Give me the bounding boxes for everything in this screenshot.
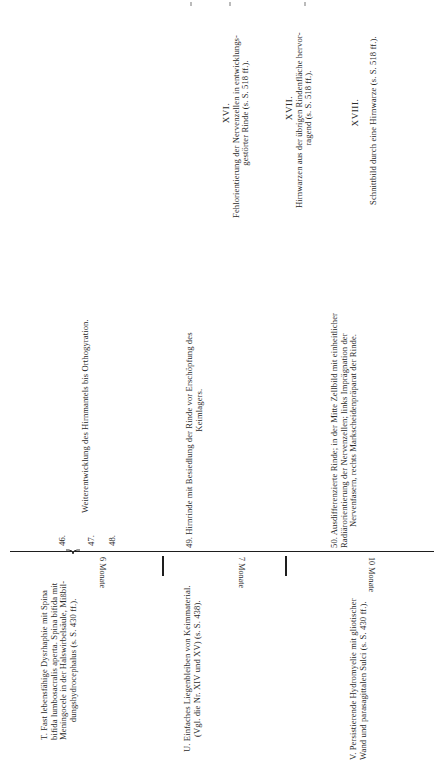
entry-47-text: Weiterentwicklung des Hirnmantels bis Or… bbox=[81, 319, 91, 513]
plate-xviii-line-1: Schnittbild durch eine Hirnwarze (s. S. … bbox=[369, 20, 379, 205]
timeline-separator bbox=[162, 556, 164, 576]
entry-49-line-1: 49. Hirnrinde mit Besiedlung der Rinde v… bbox=[185, 332, 195, 548]
entry-50-block: 50. Ausdifferenzierte Rinde; in der Mitt… bbox=[330, 313, 359, 548]
plate-xviii: XVIII. Schnittbild durch eine Hirnwarze … bbox=[351, 20, 378, 205]
timeline-separator bbox=[285, 556, 287, 576]
brace-icon bbox=[66, 520, 80, 578]
case-t-block: T. Fast lebensfähige Dysrhaphie mit Spin… bbox=[40, 581, 78, 740]
entry-48-number: 48. bbox=[108, 535, 118, 546]
scan-artifact bbox=[229, 2, 231, 6]
age-label-7-monate: 7 Monate bbox=[237, 557, 246, 588]
case-u-block: U. Einfaches Liegenbleiben von Keimmater… bbox=[183, 585, 202, 752]
entry-49-block: 49. Hirnrinde mit Besiedlung der Rinde v… bbox=[185, 332, 204, 548]
plate-xvi: XVI. Fehlorientierung der Nervenzellen i… bbox=[222, 8, 251, 218]
scan-artifact bbox=[304, 2, 306, 6]
plate-xvi-line-2: gestörter Rinde (s. S. 518 ff.). bbox=[241, 8, 251, 218]
plate-xvii-line-2: ragend (s. S. 518 ff.). bbox=[304, 8, 314, 208]
case-v-line-2: Wand und parasagittalen Sulci (s. S. 430… bbox=[359, 598, 369, 760]
age-label-10-monate: 10 Monate bbox=[367, 557, 376, 592]
plate-xviii-numeral: XVIII. bbox=[351, 20, 361, 205]
scan-artifact bbox=[190, 2, 192, 6]
plate-xvii: XVII. Hirnwarzen aus der übrigen Rindenf… bbox=[285, 8, 314, 208]
age-label-6-monate: 6 Monate bbox=[98, 557, 107, 588]
entry-47-number: 47. bbox=[87, 535, 97, 546]
entry-50-line-3: Nervenfasern, rechts Markscheidenpräpara… bbox=[349, 313, 359, 548]
entry-49-line-2: Keimlagers. bbox=[195, 332, 205, 548]
case-t-line-4: dungshydrocephalus (s. S. 430 ff.). bbox=[69, 581, 79, 740]
case-v-block: V. Persistierende Hydromyelie mit glioti… bbox=[349, 598, 368, 760]
case-u-line-2: (Vgl. die Nr. XIV und XV) (s. S. 438). bbox=[193, 585, 203, 752]
